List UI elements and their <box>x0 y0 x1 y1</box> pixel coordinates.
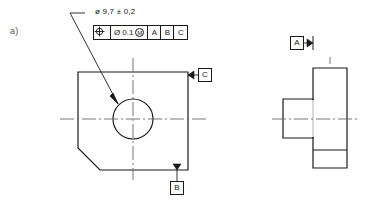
datum-a-triangle <box>307 39 313 47</box>
datum-feature-symbol-c: C <box>198 68 212 82</box>
side-view-boss-outline <box>283 99 313 138</box>
position-icon <box>94 26 105 37</box>
datum-c-triangle <box>188 71 194 79</box>
tolerance-value-cell: Ø 0.1 M <box>111 26 148 39</box>
datum-reference-tertiary: C <box>174 26 187 39</box>
mmc-modifier-icon: M <box>135 28 144 37</box>
dimension-leader-arrowhead <box>110 93 118 104</box>
datum-feature-symbol-b: B <box>170 181 184 195</box>
datum-reference-primary: A <box>148 26 161 39</box>
datum-reference-secondary: B <box>161 26 174 39</box>
datum-feature-symbol-a: A <box>290 36 304 50</box>
position-symbol-cell <box>94 26 111 39</box>
side-view-plate-outline <box>313 68 347 168</box>
figure-label: a) <box>10 26 18 36</box>
tolerance-value: 0.1 <box>122 29 133 37</box>
datum-b-triangle <box>173 164 181 170</box>
tolerance-diameter-symbol: Ø <box>114 29 120 37</box>
diameter-dimension-text: ø 9,7 ± 0,2 <box>95 7 135 16</box>
feature-control-frame: Ø 0.1 M A B C <box>93 25 188 40</box>
drawing-canvas: a) ø 9,7 ± 0,2 Ø 0.1 M A B C C B A <box>0 0 370 208</box>
